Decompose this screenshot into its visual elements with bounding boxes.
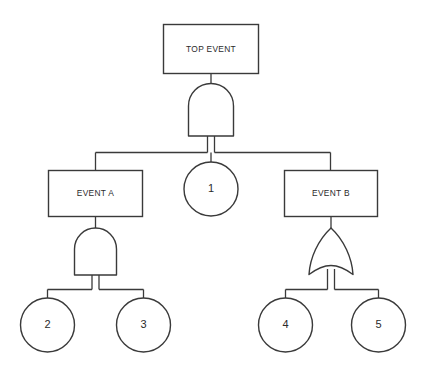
node-event-b[interactable]: EVENT B [285,171,378,217]
node-basic-event-2[interactable]: 2 [21,298,75,352]
basic-event-1-label: 1 [208,182,214,194]
node-basic-event-4[interactable]: 4 [259,298,313,352]
basic-event-4-label: 4 [282,318,288,330]
basic-event-2-label: 2 [44,318,50,330]
diagram-canvas: TOP EVENT EVENT A 1 EVENT [0,0,429,372]
basic-event-5-label: 5 [375,318,381,330]
node-basic-event-5[interactable]: 5 [352,298,406,352]
node-top-event[interactable]: TOP EVENT [164,25,259,74]
basic-event-3-label: 3 [140,318,146,330]
and-gate-shape[interactable] [75,228,117,275]
fault-tree-diagram: TOP EVENT EVENT A 1 EVENT [0,0,429,372]
node-event-a[interactable]: EVENT A [49,171,143,217]
gate-event-a-and[interactable] [75,228,117,275]
gate-top-and[interactable] [189,84,234,137]
or-gate-shape[interactable] [309,228,353,275]
node-basic-event-3[interactable]: 3 [117,298,171,352]
node-basic-event-1[interactable]: 1 [184,162,238,216]
event-a-label: EVENT A [77,188,114,198]
event-b-label: EVENT B [312,188,350,198]
and-gate-shape[interactable] [189,84,234,137]
top-event-label: TOP EVENT [186,44,236,54]
gate-event-b-or[interactable] [309,228,353,275]
